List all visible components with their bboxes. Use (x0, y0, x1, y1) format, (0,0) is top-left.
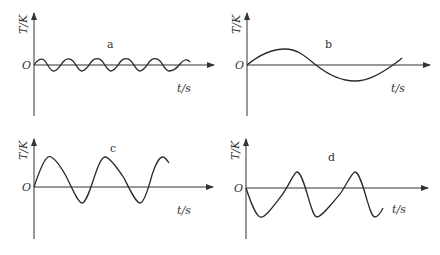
origin-label: O (22, 59, 31, 72)
four-temperature-graphs: O T/K a t/s O T/K b t/s O T/K c t/s O T/… (0, 0, 440, 255)
x-axis-label: t/s (177, 204, 191, 217)
panel-d: O T/K d t/s (229, 139, 428, 239)
panel-label: a (107, 38, 114, 51)
x-axis-label: t/s (177, 82, 191, 95)
origin-label: O (234, 182, 243, 195)
curve-d (246, 172, 383, 217)
y-axis-label: T/K (17, 14, 30, 34)
y-axis-label: T/K (229, 140, 242, 160)
panel-c: O T/K c t/s (17, 139, 213, 239)
panel-label: d (328, 151, 335, 164)
x-axis-label: t/s (392, 203, 406, 216)
x-axis-label: t/s (391, 82, 405, 95)
curve-c (34, 157, 169, 203)
origin-label: O (22, 181, 31, 194)
origin-label: O (235, 59, 244, 72)
panel-a: O T/K a t/s (17, 13, 214, 116)
panel-b: O T/K b t/s (230, 13, 430, 116)
y-axis-label: T/K (230, 14, 243, 34)
panel-label: b (325, 38, 332, 51)
panel-label: c (110, 142, 116, 155)
y-axis-label: T/K (17, 140, 30, 160)
